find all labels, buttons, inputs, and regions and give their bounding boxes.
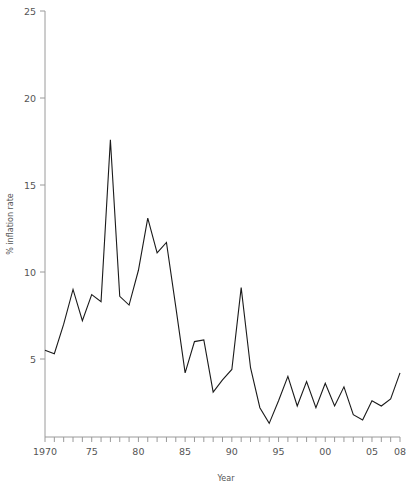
y-tick-label: 15	[24, 180, 36, 191]
inflation-rate-line	[45, 140, 400, 424]
y-tick-label: 20	[24, 93, 36, 104]
x-tick-label: 85	[179, 446, 191, 457]
y-tick-label: 5	[30, 354, 36, 365]
inflation-rate-chart: 510152025 19707580859095000508 % inflati…	[0, 0, 407, 488]
y-axis-title: % inflation rate	[6, 193, 15, 255]
x-axis-title: Year	[217, 474, 236, 483]
x-tick-label: 08	[394, 446, 406, 457]
y-tick-label: 10	[24, 267, 36, 278]
x-tick-label: 05	[366, 446, 378, 457]
x-tick-label: 1970	[33, 446, 57, 457]
x-tick-label: 80	[132, 446, 144, 457]
x-axis-tick-labels: 19707580859095000508	[33, 446, 406, 457]
chart-canvas: 510152025 19707580859095000508 % inflati…	[0, 0, 407, 488]
y-axis-tick-labels: 510152025	[24, 6, 36, 365]
x-tick-label: 90	[226, 446, 238, 457]
y-axis-ticks	[40, 11, 45, 359]
x-tick-label: 00	[319, 446, 331, 457]
x-tick-label: 95	[273, 446, 285, 457]
x-tick-label: 75	[86, 446, 98, 457]
x-axis-ticks	[45, 437, 400, 442]
y-tick-label: 25	[24, 6, 36, 17]
